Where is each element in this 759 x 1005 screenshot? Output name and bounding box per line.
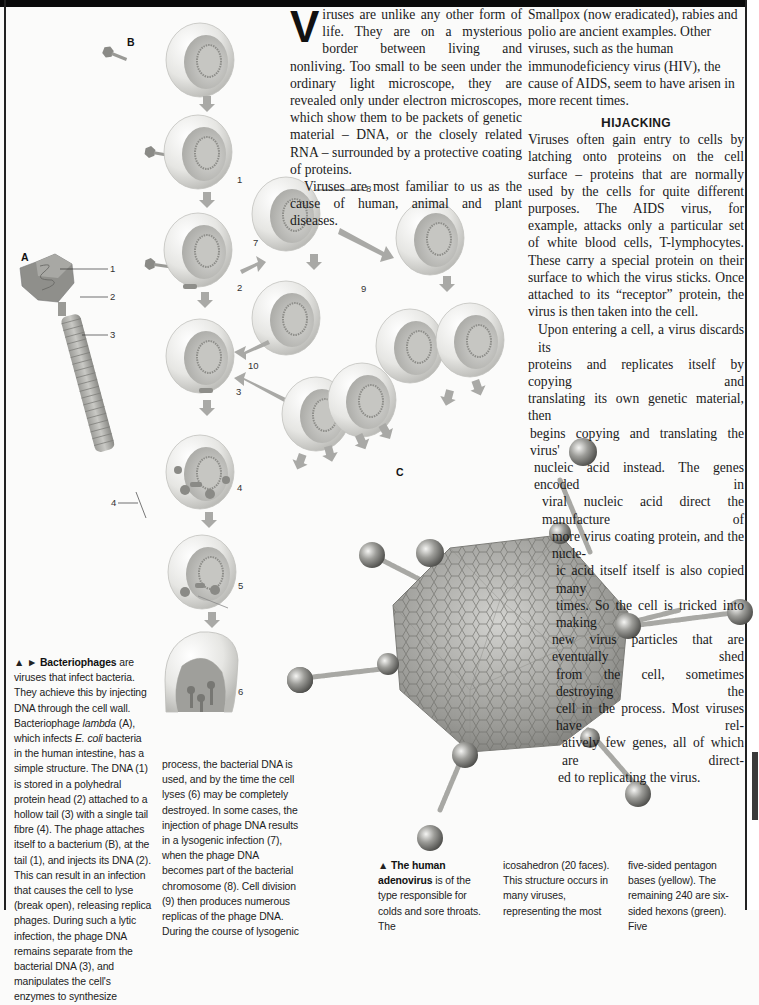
step-label-3: 3 — [236, 386, 241, 397]
step-label-7: 7 — [253, 237, 258, 248]
text-line: cell in the process. Most viruses have r… — [528, 700, 744, 734]
caption-marker-arrows: ▲ ► — [14, 657, 40, 668]
phage-part-label-2: 2 — [110, 291, 115, 302]
examples-paragraph: Smallpox (now eradicated), rabies and po… — [528, 6, 744, 109]
text-line: new virus particles that are eventually … — [528, 631, 744, 665]
step-label-1: 1 — [237, 174, 242, 185]
step-label-5: 5 — [238, 580, 243, 591]
article-column-2: Smallpox (now eradicated), rabies and po… — [528, 6, 744, 786]
figure-label-c: C — [396, 466, 404, 478]
diseases-paragraph: Viruses are most familiar to us as the c… — [290, 178, 522, 230]
text-line: ed to replicating the virus. — [528, 769, 744, 786]
caption-text: five-sided pentagon bases (yellow). The … — [628, 858, 744, 934]
text-line: more virus coating protein, and the nucl… — [528, 528, 744, 562]
text-line: nucleic acid instead. The genes encoded … — [528, 459, 744, 493]
drop-cap: V — [290, 10, 319, 44]
step-label-4: 4 — [237, 482, 242, 493]
step-label-6: 6 — [238, 686, 243, 697]
caption-adenovirus-col3: five-sided pentagon bases (yellow). The … — [628, 858, 744, 934]
caption-text: icosahedron (20 faces). This structure o… — [503, 858, 621, 919]
text-line: times. So the cell is tricked into makin… — [528, 597, 744, 631]
article-column-1: Viruses are unlike any other form of lif… — [290, 6, 522, 230]
text-line: atively few genes, all of which are dire… — [528, 734, 744, 768]
caption-italic: E. coli — [75, 733, 103, 744]
phage-part-label-1: 1 — [110, 263, 115, 274]
text-line: from the cell, sometimes destroying the — [528, 666, 744, 700]
section-heading-hijacking: HIJACKING — [528, 115, 744, 131]
caption-bacteriophages: ▲ ► Bacteriophages are viruses that infe… — [14, 655, 152, 1005]
text-line: begins copying and translating the virus… — [528, 425, 744, 459]
figure-label-b: B — [127, 36, 135, 48]
caption-text: process, the bacterial DNA is used, and … — [162, 757, 302, 939]
caption-marker-arrow: ▲ — [378, 860, 391, 871]
text-line: viral nucleic acid direct the manufactur… — [528, 493, 744, 527]
intro-text: iruses are unlike any other form of life… — [290, 7, 522, 177]
hijacking-paragraph: Viruses often gain entry to cells by lat… — [528, 131, 744, 320]
text-line: ic acid itself itself is also copied man… — [528, 562, 744, 596]
step-label-10: 10 — [248, 360, 259, 371]
phage-part-label-4: 4 — [111, 497, 116, 508]
bacteriophage-lambda — [20, 254, 146, 518]
heading-rest: IJACKING — [611, 116, 671, 130]
caption-adenovirus-col1: ▲ The human adenovirus is of the type re… — [378, 858, 490, 934]
caption-adenovirus-col2: icosahedron (20 faces). This structure o… — [503, 858, 621, 919]
figure-label-a: A — [21, 251, 29, 263]
intro-paragraph: Viruses are unlike any other form of lif… — [290, 6, 522, 178]
caption-italic: lambda — [83, 718, 116, 729]
replication-paragraph: Upon entering a cell, a virus discards i… — [528, 321, 744, 785]
text-line: proteins and replicates itself by copyin… — [528, 356, 744, 390]
caption-title: Bacteriophages — [40, 657, 117, 668]
step-label-9: 9 — [361, 283, 366, 294]
caption-text: bacteria in the human intestine, has a s… — [14, 733, 151, 1002]
step-label-2: 2 — [237, 282, 242, 293]
caption-bacteriophages-continued: process, the bacterial DNA is used, and … — [162, 757, 302, 939]
phage-part-label-3: 3 — [110, 329, 115, 340]
text-line: translating its own genetic material, th… — [528, 390, 744, 424]
text-line: Upon entering a cell, a virus discards i… — [528, 321, 744, 355]
heading-initial: H — [601, 115, 611, 130]
